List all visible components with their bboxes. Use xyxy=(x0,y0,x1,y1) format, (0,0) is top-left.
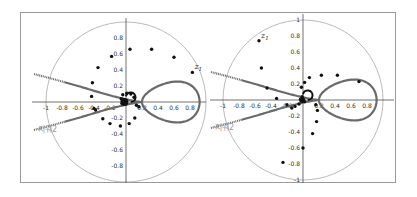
y-tick-label: 0.4 xyxy=(113,66,123,73)
region-label: 지워2 xyxy=(38,125,57,134)
data-point xyxy=(320,74,323,77)
data-point xyxy=(300,86,303,89)
right-plot: -1-0.8-0.6-0.4-0.20.20.40.60.810.80.60.4… xyxy=(210,14,394,183)
y-tick-label: 0.8 xyxy=(113,34,123,41)
x-tick-label: -1 xyxy=(43,104,49,111)
data-point xyxy=(124,100,127,103)
data-point xyxy=(133,116,136,119)
curve-right-loop xyxy=(142,82,200,103)
data-point xyxy=(290,106,293,109)
data-point xyxy=(357,80,360,83)
data-point xyxy=(303,100,306,103)
x-tick-label: -0.8 xyxy=(233,102,245,109)
data-point xyxy=(281,161,284,164)
data-point xyxy=(275,97,278,100)
data-point xyxy=(132,96,135,99)
y-tick-label: -0.2 xyxy=(288,112,300,119)
data-point xyxy=(92,107,95,110)
data-point xyxy=(120,97,123,100)
y-tick-label: -0.4 xyxy=(111,130,123,137)
data-point xyxy=(297,102,300,105)
data-point xyxy=(129,92,132,95)
data-point xyxy=(314,103,317,106)
y-tick-label: 0.2 xyxy=(113,82,123,89)
data-point xyxy=(293,105,296,108)
region-label: 지워2 xyxy=(215,123,234,132)
data-point xyxy=(336,74,339,77)
left-plot: -1-0.8-0.6-0.4-0.20.20.40.60.80.80.60.40… xyxy=(32,18,206,183)
y-tick-label: 0.6 xyxy=(113,50,123,57)
x-tick-label: 0.8 xyxy=(185,104,195,111)
y-tick-label: -0.8 xyxy=(288,160,300,167)
data-point xyxy=(91,81,94,84)
curve-right-loop xyxy=(319,80,377,101)
point-annotation: z1 xyxy=(193,62,202,72)
x-tick-label: -0.6 xyxy=(249,102,261,109)
y-tick-label: -0.2 xyxy=(111,114,123,121)
data-point xyxy=(101,117,104,120)
data-point xyxy=(110,55,113,58)
y-tick-label: -0.6 xyxy=(288,144,300,151)
y-tick-label: 0.2 xyxy=(290,80,300,87)
x-tick-label: 0.4 xyxy=(330,102,340,109)
data-point xyxy=(316,109,319,112)
data-point xyxy=(128,48,131,51)
data-point xyxy=(303,81,306,84)
data-point xyxy=(119,124,122,127)
x-tick-label: -0.8 xyxy=(56,104,68,111)
y-tick-label: 1 xyxy=(296,16,300,23)
data-point xyxy=(96,66,99,69)
data-point xyxy=(125,92,128,95)
complex-plane-plots: -1-0.8-0.6-0.4-0.20.20.40.60.80.80.60.40… xyxy=(0,0,417,197)
y-tick-label: -1 xyxy=(294,176,300,183)
data-point xyxy=(90,95,93,98)
y-tick-label: -0.4 xyxy=(288,128,300,135)
data-point xyxy=(260,66,263,69)
y-tick-label: 0.8 xyxy=(290,32,300,39)
data-point xyxy=(121,93,124,96)
y-tick-label: -0.8 xyxy=(111,162,123,169)
x-tick-label: 0.6 xyxy=(169,104,179,111)
x-tick-label: 0.4 xyxy=(153,104,163,111)
data-point xyxy=(108,122,111,125)
data-point xyxy=(301,146,304,149)
point-annotation: z1 xyxy=(260,31,269,41)
x-tick-label: -0.6 xyxy=(72,104,84,111)
x-tick-label: -0.4 xyxy=(265,102,277,109)
data-point xyxy=(311,132,314,135)
data-point xyxy=(308,76,311,79)
x-tick-label: -1 xyxy=(220,102,226,109)
data-point xyxy=(120,102,123,105)
y-tick-label: 0.6 xyxy=(290,48,300,55)
data-point xyxy=(265,86,268,89)
data-point xyxy=(301,95,304,98)
data-point xyxy=(315,120,318,123)
data-point xyxy=(137,105,140,108)
y-tick-label: 0.4 xyxy=(290,64,300,71)
data-point xyxy=(128,122,131,125)
x-tick-label: 0.8 xyxy=(362,102,372,109)
y-tick-label: -0.6 xyxy=(111,146,123,153)
data-point xyxy=(172,56,175,59)
data-point xyxy=(285,103,288,106)
x-tick-label: 0.6 xyxy=(346,102,356,109)
data-point xyxy=(150,48,153,51)
